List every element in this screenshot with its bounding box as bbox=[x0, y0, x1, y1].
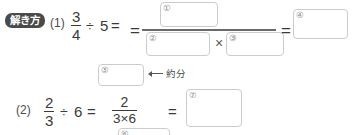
answer-box-value bbox=[147, 33, 209, 55]
answer-box-5[interactable]: ⑤ bbox=[98, 64, 144, 86]
divisor-2: 6 bbox=[74, 104, 82, 119]
equals-sign-1a: = bbox=[111, 18, 120, 33]
answer-box-value bbox=[161, 3, 217, 26]
fraction-two-thirds: 2 3 bbox=[44, 95, 54, 128]
fraction-numerator: 2 bbox=[44, 95, 54, 110]
equals-sign-1c: = bbox=[281, 22, 291, 39]
fraction-numerator: 3 bbox=[71, 9, 81, 24]
equals-sign-2a: = bbox=[87, 104, 96, 119]
problem-number-2: (2) bbox=[16, 104, 31, 116]
answer-box-value bbox=[119, 129, 169, 135]
divisor-1: 5 bbox=[100, 18, 108, 33]
annotation-yakubun: 約分 bbox=[148, 69, 186, 79]
answer-box-2[interactable]: ② bbox=[146, 32, 210, 56]
left-arrow-icon bbox=[148, 70, 163, 77]
answer-box-value bbox=[294, 10, 347, 38]
answer-box-1[interactable]: ① bbox=[160, 2, 218, 27]
fraction-denominator: 3 bbox=[44, 113, 54, 128]
division-sign-1: ÷ bbox=[86, 19, 94, 33]
annotation-label: 約分 bbox=[166, 69, 186, 79]
fraction-three-fourths: 3 4 bbox=[71, 9, 81, 42]
section-badge-tokikata: 解き方 bbox=[5, 13, 45, 28]
answer-box-7[interactable]: ⑦ bbox=[186, 89, 242, 127]
worksheet-page: 解き方 (1) 3 4 ÷ 5 = = ① ② × ③ = ④ ⑤ bbox=[0, 0, 358, 135]
compound-fraction-bar bbox=[142, 29, 276, 31]
answer-box-3[interactable]: ③ bbox=[226, 32, 284, 56]
equals-sign-2b: = bbox=[168, 104, 177, 119]
division-sign-2: ÷ bbox=[60, 105, 68, 119]
fraction-denominator: 4 bbox=[71, 27, 81, 42]
answer-box-value bbox=[187, 90, 241, 126]
multiplication-sign-1: × bbox=[215, 36, 223, 50]
problem-number-1: (1) bbox=[50, 17, 65, 29]
fraction-numerator: 2 bbox=[120, 95, 130, 109]
fraction-denominator: 3×6 bbox=[112, 112, 137, 126]
equals-sign-1b: = bbox=[130, 22, 140, 39]
fraction-two-over-three-times-six: 2 3×6 bbox=[112, 95, 137, 126]
answer-box-value bbox=[99, 65, 143, 85]
answer-box-4[interactable]: ④ bbox=[293, 9, 348, 39]
answer-box-6[interactable]: ⑥ bbox=[118, 128, 170, 135]
answer-box-value bbox=[227, 33, 283, 55]
